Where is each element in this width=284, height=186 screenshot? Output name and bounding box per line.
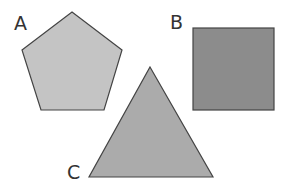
label-a: A — [14, 12, 27, 34]
pentagon-a — [22, 12, 122, 110]
shapes-diagram: A B C — [0, 0, 284, 186]
label-c: C — [67, 161, 80, 183]
square-b — [193, 28, 274, 110]
label-b: B — [170, 11, 183, 33]
